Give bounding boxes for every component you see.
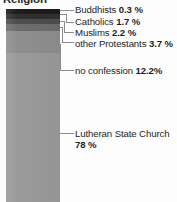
stacked-bar [6, 9, 60, 202]
bar-segment-no-confession[interactable] [6, 31, 60, 53]
bar-segment-lutheran-state-church[interactable] [6, 53, 60, 202]
chart-title: Religion [3, 0, 47, 5]
callout-name-lutheran-state-church: Lutheran State Church [75, 128, 169, 139]
callout-label-buddhists: Buddhists 0.3 % [75, 4, 143, 15]
callout-value-lutheran-state-church: 78 % [75, 139, 169, 150]
callout-value-other-protestants: 3.7 % [149, 38, 173, 49]
religion-stacked-bar-chart: Religion Buddhists [0, 0, 177, 202]
bar-segment-other-protestants[interactable] [6, 24, 60, 31]
leader-line-lutheran-state-church [60, 133, 74, 135]
callout-name-catholics: Catholics [75, 16, 114, 27]
callout-name-no-confession: no confession [75, 65, 133, 76]
callout-label-muslims: Muslims 2.2 % [75, 27, 136, 38]
callout-name-muslims: Muslims [75, 27, 109, 38]
callout-name-other-protestants: other Protestants [75, 38, 146, 49]
callout-label-lutheran-state-church: Lutheran State Church 78 % [75, 128, 169, 151]
callout-value-buddhists: 0.3 % [119, 4, 143, 15]
leader-line-buddhists [60, 10, 74, 12]
leader-line-catholics [60, 14, 74, 23]
callout-name-buddhists: Buddhists [75, 4, 116, 15]
leader-line-no-confession [60, 44, 74, 71]
callout-label-catholics: Catholics 1.7 % [75, 16, 140, 27]
callout-label-no-confession: no confession 12.2% [75, 65, 162, 76]
leader-line-muslims [60, 21, 74, 33]
callout-value-muslims: 2.2 % [112, 27, 136, 38]
callout-value-catholics: 1.7 % [116, 16, 140, 27]
callout-label-other-protestants: other Protestants 3.7 % [75, 38, 173, 49]
leader-line-other-protestants [60, 27, 74, 43]
callout-value-no-confession: 12.2% [135, 65, 162, 76]
